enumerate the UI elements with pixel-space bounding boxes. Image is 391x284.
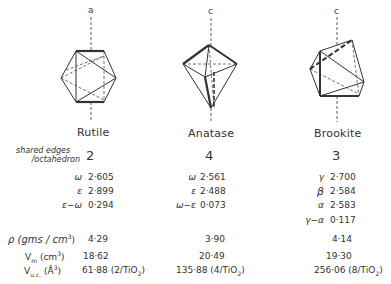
brookite-axis-label: c [334,6,339,16]
density-label: ρ (gms / cm3) [8,233,75,245]
unit-cell-volume-label: Vu.c. (Å3) [24,264,61,278]
brookite-unit-cell-volume: 256·06 (8/TiO2) [314,265,383,277]
brookite-molar-volume: 19·30 [326,251,352,261]
rutile-name: Rutile [77,126,110,139]
rutile-density: 4·29 [88,234,108,244]
anatase-shared-edges: 4 [205,148,213,163]
anatase-density: 3·90 [205,234,225,244]
rutile-symbol-birefringence: ε−ω [40,200,82,210]
brookite-value-birefringence: 0·117 [330,215,356,225]
brookite-name: Brookite [314,127,361,140]
anatase-value-epsilon: 2·488 [200,186,226,196]
rutile-value-epsilon: 2·899 [88,186,114,196]
rutile-shared-edges: 2 [86,148,94,163]
anatase-symbol-epsilon: ε [150,186,196,196]
rutile-value-omega: 2·605 [88,172,114,182]
rutile-symbol-epsilon: ε [40,186,82,196]
anatase-unit-cell-volume: 135·88 (4/TiO2) [176,265,245,277]
anatase-octahedron-icon [183,18,237,122]
brookite-symbol-alpha: α [280,200,324,210]
brookite-density: 4·14 [332,234,352,244]
brookite-symbol-gamma: γ [280,172,324,182]
rutile-molar-volume: 18·62 [83,251,109,261]
brookite-value-gamma: 2·700 [330,172,356,182]
anatase-value-omega: 2·561 [200,172,226,182]
anatase-name: Anatase [188,127,234,140]
rutile-unit-cell-volume: 61·88 (2/TiO2) [82,265,145,277]
rutile-axis-label: a [88,5,94,15]
shared-edges-label: shared edges /octahedron [2,146,80,164]
rutile-value-birefringence: 0·294 [88,200,114,210]
brookite-value-beta: 2·584 [330,186,356,196]
brookite-symbol-beta: β [280,185,324,198]
anatase-axis-label: c [208,6,213,16]
molar-volume-label: Vm (cm3) [25,250,64,264]
rutile-symbol-omega: ω [40,172,82,182]
brookite-octahedron-icon [310,17,364,122]
anatase-molar-volume: 20·49 [199,251,225,261]
brookite-symbol-birefringence: γ−α [280,215,324,225]
anatase-symbol-birefringence: ω−ε [150,200,196,210]
brookite-value-alpha: 2·583 [330,200,356,210]
anatase-value-birefringence: 0·073 [200,200,226,210]
anatase-symbol-omega: ω [150,172,196,182]
brookite-shared-edges: 3 [332,148,340,163]
rutile-octahedron-icon [61,17,116,120]
